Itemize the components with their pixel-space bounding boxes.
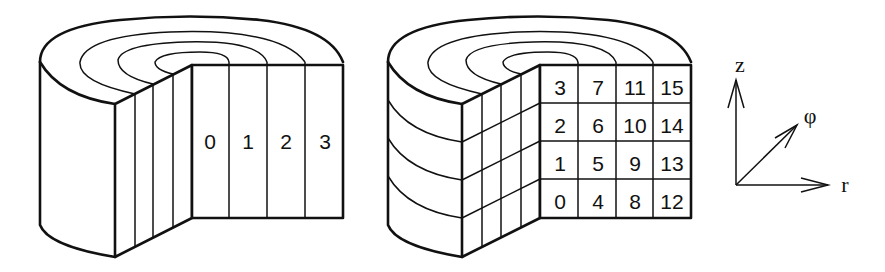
z-axis-label: z (735, 52, 745, 77)
grid-cell: 2 (554, 114, 566, 137)
grid-cell: 15 (660, 76, 683, 99)
coordinate-axes: z φ r (728, 52, 849, 197)
grid-cell: 13 (660, 152, 683, 175)
phi-axis-label: φ (804, 103, 817, 128)
grid-cell: 4 (592, 190, 604, 213)
right-cylinder: 3 7 11 15 2 6 10 14 1 5 9 13 0 4 8 12 (388, 17, 691, 258)
grid-cell: 11 (624, 76, 646, 99)
grid-cell: 5 (592, 152, 604, 175)
phi-axis-arrow (736, 125, 797, 185)
grid-cell: 8 (629, 190, 641, 213)
right-top-rim (388, 17, 691, 63)
grid-cell: 14 (660, 114, 684, 137)
grid-cell: 7 (592, 76, 604, 99)
left-cell-0: 0 (204, 130, 216, 153)
grid-cell: 1 (554, 152, 566, 175)
grid-cell: 3 (554, 76, 566, 99)
left-cell-1: 1 (242, 130, 254, 153)
left-top-rim (40, 17, 343, 63)
left-cell-3: 3 (319, 130, 331, 153)
grid-cell: 9 (629, 152, 641, 175)
cylinder-decomposition-figure: 0 1 2 3 3 7 (0, 0, 885, 272)
grid-cell: 10 (623, 114, 646, 137)
grid-cell: 0 (554, 190, 566, 213)
grid-cell: 12 (660, 190, 683, 213)
grid-cell: 6 (592, 114, 604, 137)
left-cylinder: 0 1 2 3 (40, 17, 343, 258)
left-cell-2: 2 (280, 130, 292, 153)
r-axis-label: r (841, 172, 849, 197)
